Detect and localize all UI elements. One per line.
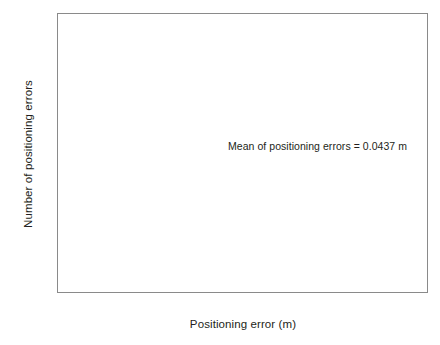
plot-area [57,13,428,293]
x-axis-title: Positioning error (m) [57,318,429,330]
bars-container [58,14,427,292]
mean-annotation: Mean of positioning errors = 0.0437 m [228,140,407,152]
y-axis-title: Number of positioning errors [22,34,34,274]
histogram-figure: Number of positioning errors Mean of pos… [0,0,440,345]
